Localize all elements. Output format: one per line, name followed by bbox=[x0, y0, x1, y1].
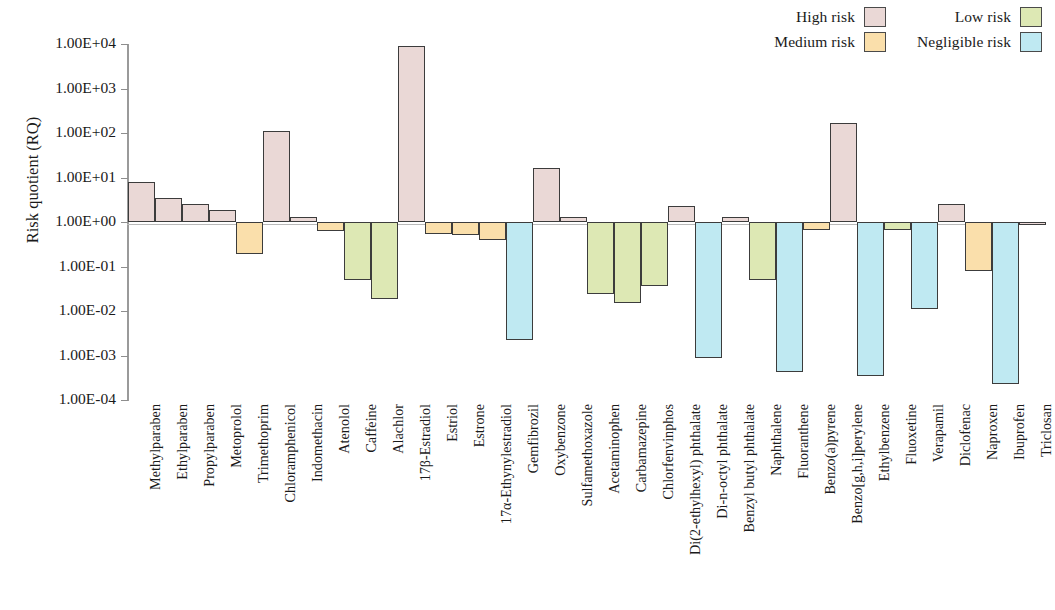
y-tick-label: 1.00E-02 bbox=[59, 301, 116, 319]
y-tick-label: 1.00E-04 bbox=[59, 390, 116, 408]
bar bbox=[560, 217, 587, 222]
x-axis-label: Indomethacin bbox=[309, 404, 326, 482]
x-axis-label: Trimethoprim bbox=[255, 404, 272, 483]
bar bbox=[398, 46, 425, 222]
y-tick-label: 1.00E-01 bbox=[59, 257, 116, 275]
y-tick-mark bbox=[121, 222, 128, 223]
bar bbox=[479, 222, 506, 240]
legend-item-low-risk: Low risk bbox=[886, 7, 1042, 27]
bar bbox=[911, 222, 938, 309]
bar bbox=[533, 168, 560, 222]
bar bbox=[668, 206, 695, 222]
bar bbox=[209, 210, 236, 222]
y-tick-label: 1.00E+04 bbox=[55, 34, 116, 52]
x-axis-label: Gemfibrozil bbox=[525, 404, 542, 473]
x-axis-label: Verapamil bbox=[930, 404, 947, 462]
x-axis-label: Triclosan bbox=[1038, 404, 1055, 457]
bar bbox=[236, 222, 263, 254]
y-axis-title: Risk quotient (RQ) bbox=[23, 85, 43, 275]
legend-label: Low risk bbox=[955, 8, 1011, 26]
bar bbox=[425, 222, 452, 234]
bar bbox=[587, 222, 614, 294]
x-axis-label: Atenolol bbox=[336, 404, 353, 454]
x-axis-label: Sulfamethoxazole bbox=[579, 404, 596, 506]
x-axis-label: Fluoranthene bbox=[795, 404, 812, 479]
y-tick-mark bbox=[121, 133, 128, 134]
x-axis-label: Benzo(a)pyrene bbox=[822, 404, 839, 495]
x-axis-label: Carbamazepine bbox=[633, 404, 650, 492]
x-axis-label: Di-n-octyl phthalate bbox=[714, 404, 731, 519]
y-tick-label: 1.00E+03 bbox=[55, 79, 116, 97]
x-axis-label: Chlorfenvinphos bbox=[660, 404, 677, 499]
bar bbox=[749, 222, 776, 280]
y-tick-mark bbox=[121, 311, 128, 312]
bar bbox=[695, 222, 722, 358]
bar bbox=[290, 217, 317, 222]
legend-label: High risk bbox=[796, 8, 855, 26]
legend-item-high-risk: High risk bbox=[690, 7, 886, 27]
bar bbox=[965, 222, 992, 271]
x-axis-label: Ethylbenzene bbox=[876, 404, 893, 481]
bar bbox=[506, 222, 533, 340]
x-axis-labels: MethylparabenEthylparabenPropylparabenMe… bbox=[128, 404, 1046, 610]
x-axis-label: Metoprolol bbox=[228, 404, 245, 468]
y-tick-label: 1.00E+00 bbox=[55, 212, 116, 230]
x-axis-label: Estrone bbox=[471, 404, 488, 447]
y-tick-mark bbox=[121, 178, 128, 179]
y-tick-mark bbox=[121, 44, 128, 45]
bar bbox=[830, 123, 857, 222]
bar bbox=[1019, 222, 1046, 225]
bar bbox=[641, 222, 668, 286]
bar bbox=[263, 131, 290, 222]
y-tick-mark bbox=[121, 356, 128, 357]
bar bbox=[938, 204, 965, 222]
x-axis-label: Naphthalene bbox=[768, 404, 785, 476]
x-axis-label: Ethylparaben bbox=[174, 404, 191, 480]
x-axis-label: Benzo[g,h,i]perylene bbox=[849, 404, 866, 524]
y-tick-mark bbox=[121, 89, 128, 90]
x-axis-label: Naproxen bbox=[984, 404, 1001, 460]
x-axis-label: 17β-Estradiol bbox=[417, 404, 434, 481]
bar bbox=[371, 222, 398, 299]
x-axis-label: Propylparaben bbox=[201, 404, 218, 487]
x-axis-label: Diclofenac bbox=[957, 404, 974, 466]
bar bbox=[155, 198, 182, 222]
bar bbox=[776, 222, 803, 372]
y-tick-mark bbox=[121, 267, 128, 268]
legend-row: High riskLow risk bbox=[690, 4, 1042, 29]
y-tick-label: 1.00E+02 bbox=[55, 123, 116, 141]
legend-swatch bbox=[864, 7, 886, 27]
bar bbox=[884, 222, 911, 230]
x-axis-label: 17α-Ethynylestradiol bbox=[498, 404, 515, 524]
x-axis-label: Chloramphenicol bbox=[282, 404, 299, 503]
bar bbox=[614, 222, 641, 303]
bar bbox=[857, 222, 884, 376]
x-axis-label: Estriol bbox=[444, 404, 461, 442]
x-axis-label: Ibuprofen bbox=[1011, 404, 1028, 460]
x-axis-label: Alachlor bbox=[390, 404, 407, 454]
bar bbox=[317, 222, 344, 231]
x-axis-label: Benzyl butyl phthalate bbox=[741, 404, 758, 532]
bar bbox=[452, 222, 479, 235]
y-tick-label: 1.00E-03 bbox=[59, 346, 116, 364]
bar bbox=[803, 222, 830, 230]
x-axis-label: Caffeine bbox=[363, 404, 380, 453]
bar bbox=[182, 204, 209, 222]
x-axis-label: Acetaminophen bbox=[606, 404, 623, 494]
bar bbox=[722, 217, 749, 222]
legend-swatch bbox=[1020, 7, 1042, 27]
bar bbox=[128, 182, 155, 222]
plot-area bbox=[128, 44, 1046, 400]
x-axis-label: Di(2-ethylhexyl) phthalate bbox=[687, 404, 704, 555]
x-axis-label: Methylparaben bbox=[147, 404, 164, 490]
bar bbox=[992, 222, 1019, 384]
y-tick-mark bbox=[121, 400, 128, 401]
y-tick-label: 1.00E+01 bbox=[55, 168, 116, 186]
bar bbox=[344, 222, 371, 280]
x-axis-label: Fluoxetine bbox=[903, 404, 920, 465]
x-axis-label: Oxybenzone bbox=[552, 404, 569, 476]
